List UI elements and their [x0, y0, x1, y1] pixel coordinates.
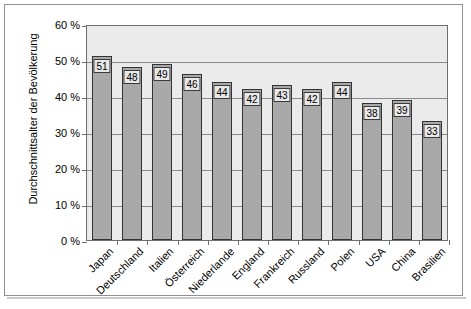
bar-value-label: 44: [213, 85, 230, 99]
bar[interactable]: 38: [362, 103, 381, 240]
y-axis-title: Durchschnittsalter der Bevölkerung: [27, 0, 39, 239]
y-tick-mark: [82, 98, 87, 99]
bar-slot: 42: [297, 26, 327, 240]
y-tick-label: 60 %: [55, 19, 80, 31]
y-tick-mark: [82, 242, 87, 243]
bar[interactable]: 43: [272, 85, 291, 240]
bar-value-label: 42: [303, 92, 320, 106]
bar-slot: 39: [387, 26, 417, 240]
y-tick-mark: [82, 26, 87, 27]
bar-value-label: 38: [363, 106, 380, 120]
y-tick-label: 0 %: [61, 235, 80, 247]
bar[interactable]: 48: [122, 67, 141, 240]
x-axis-label: USA: [363, 245, 387, 269]
bar-slot: 44: [327, 26, 357, 240]
bar-slot: 51: [87, 26, 117, 240]
bar[interactable]: 44: [212, 82, 231, 240]
bar-value-label: 48: [123, 70, 140, 84]
y-tick-mark: [82, 206, 87, 207]
x-axis-label: Polen: [329, 245, 357, 273]
bar-slot: 44: [207, 26, 237, 240]
y-tick-mark: [82, 134, 87, 135]
bar-slot: 43: [267, 26, 297, 240]
bar-series: 514849464442434244383933: [87, 26, 447, 240]
y-tick-mark: [82, 62, 87, 63]
y-tick-label: 10 %: [55, 199, 80, 211]
bar[interactable]: 51: [92, 56, 111, 240]
bar-slot: 48: [117, 26, 147, 240]
bar[interactable]: 42: [302, 89, 321, 240]
x-axis-tick: [449, 240, 450, 245]
bar-slot: 33: [417, 26, 447, 240]
bar[interactable]: 46: [182, 74, 201, 240]
bar-slot: 42: [237, 26, 267, 240]
y-tick-label: 50 %: [55, 55, 80, 67]
plot-area: 514849464442434244383933 0 %10 %20 %30 %…: [86, 25, 448, 241]
y-tick-label: 40 %: [55, 91, 80, 103]
y-tick-label: 30 %: [55, 127, 80, 139]
y-tick-label: 20 %: [55, 163, 80, 175]
bar[interactable]: 39: [392, 100, 411, 240]
bar-value-label: 46: [183, 77, 200, 91]
bar-value-label: 49: [153, 67, 170, 81]
y-tick-mark: [82, 170, 87, 171]
bar-value-label: 39: [393, 103, 410, 117]
bar[interactable]: 44: [332, 82, 351, 240]
bar-value-label: 43: [273, 88, 290, 102]
chart-figure: Durchschnittsalter der Bevölkerung 51484…: [4, 4, 463, 296]
bar-slot: 46: [177, 26, 207, 240]
bar-slot: 38: [357, 26, 387, 240]
bar[interactable]: 42: [242, 89, 261, 240]
bar-value-label: 33: [423, 124, 440, 138]
bar[interactable]: 49: [152, 64, 171, 240]
bar[interactable]: 33: [422, 121, 441, 240]
bar-value-label: 44: [333, 85, 350, 99]
bar-value-label: 42: [243, 92, 260, 106]
bar-value-label: 51: [93, 59, 110, 73]
bar-slot: 49: [147, 26, 177, 240]
x-axis-labels: JapanDeutschlandItalienÖsterreichNiederl…: [86, 245, 448, 305]
